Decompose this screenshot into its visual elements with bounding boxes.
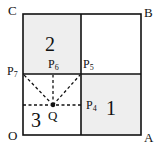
dashed-lines xyxy=(23,75,81,105)
region-label-3: 3 xyxy=(31,110,41,130)
p7-base: P xyxy=(7,64,14,78)
p5-sub: 5 xyxy=(90,63,94,72)
p5-base: P xyxy=(83,57,90,71)
point-q-dot xyxy=(51,103,55,107)
p4-sub: 4 xyxy=(93,104,97,113)
p6-sub: 6 xyxy=(55,63,59,72)
vertex-label-o: O xyxy=(8,129,17,142)
vertex-label-a: A xyxy=(144,131,153,144)
p6-base: P xyxy=(48,57,55,71)
p7-sub: 7 xyxy=(14,70,18,79)
dashed-q-to-p7 xyxy=(24,75,53,105)
square-diagram xyxy=(0,0,165,154)
point-label-p7: P7 xyxy=(7,65,18,79)
region-label-1: 1 xyxy=(106,98,116,118)
point-label-p4: P4 xyxy=(86,99,97,113)
region-label-2: 2 xyxy=(45,34,55,54)
dashed-q-to-p5 xyxy=(53,75,80,105)
vertex-label-b: B xyxy=(144,6,153,19)
point-label-p6: P6 xyxy=(48,58,59,72)
point-label-q: Q xyxy=(48,109,57,122)
p4-base: P xyxy=(86,98,93,112)
vertex-label-c: C xyxy=(8,4,17,17)
point-label-p5: P5 xyxy=(83,58,94,72)
